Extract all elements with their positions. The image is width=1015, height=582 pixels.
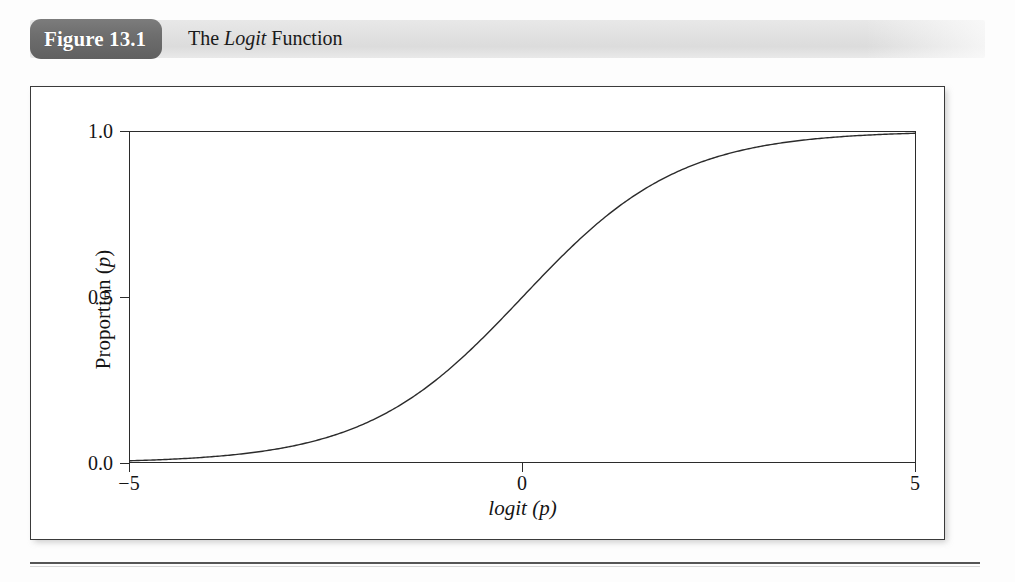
figure-caption: The Logit Function [188, 27, 342, 50]
y-axis-label-paren-open: ( [91, 267, 115, 279]
ytick-mark-0-0 [120, 463, 129, 464]
x-axis-label-arg: p [539, 496, 550, 520]
xtick-mark-5 [915, 463, 916, 472]
y-axis-label: Proportion (p) [91, 200, 116, 420]
figure-plate: 1.0 0.5 0.0 −5 0 5 Proportion (p) logit … [30, 86, 945, 540]
footer-rule [30, 562, 980, 564]
x-axis-label-paren-open: ( [527, 496, 539, 520]
xtick-label-minus5: −5 [99, 472, 159, 495]
xtick-mark-0 [522, 463, 523, 472]
x-axis-label-paren-close: ) [550, 496, 557, 520]
x-axis-label-name: logit [488, 496, 527, 520]
y-axis-label-arg: p [91, 257, 115, 268]
caption-italic-term: Logit [224, 27, 266, 49]
figure-header-band [30, 20, 985, 58]
y-axis-label-name: Proportion [91, 279, 115, 369]
ytick-label-1-0: 1.0 [45, 120, 113, 143]
ytick-mark-1-0 [120, 131, 129, 132]
x-axis-label: logit (p) [129, 496, 916, 521]
xtick-label-0: 0 [492, 472, 552, 495]
figure-number-badge: Figure 13.1 [30, 19, 162, 59]
xtick-mark-minus5 [129, 463, 130, 472]
xtick-label-5: 5 [885, 472, 945, 495]
caption-prefix: The [188, 27, 224, 49]
logit-curve-plot [129, 131, 916, 463]
y-axis-label-paren-close: ) [91, 250, 115, 257]
logit-curve-path [129, 133, 916, 461]
caption-suffix: Function [266, 27, 342, 49]
ytick-mark-0-5 [120, 297, 129, 298]
